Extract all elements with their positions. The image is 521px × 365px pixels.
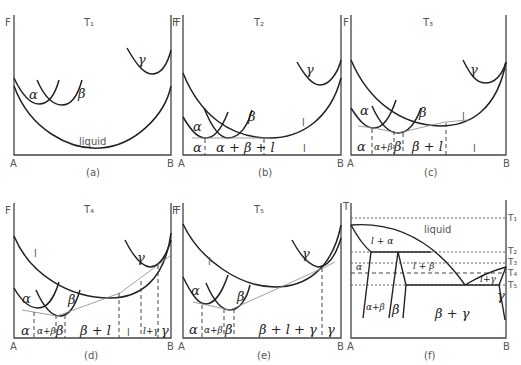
panel-caption: (a) (86, 167, 100, 178)
panel-caption: (d) (84, 350, 98, 361)
axis-label-a: A (347, 341, 354, 352)
axis-label-a: A (178, 158, 185, 169)
liquid-curve (14, 233, 171, 298)
region-label: β (394, 141, 402, 152)
beta-label: β (248, 111, 256, 122)
beta-label: β (237, 291, 245, 302)
region-beta-gamma: β + γ (435, 308, 469, 319)
liquid-label: l (34, 248, 37, 259)
region-liquid-gamma: l+γ (480, 274, 496, 285)
panel-caption: (c) (424, 167, 437, 178)
beta-label: β (419, 107, 427, 118)
axis-label-b: B (503, 158, 510, 169)
region-label: α (193, 142, 202, 153)
liquid-curve (183, 73, 341, 138)
temperature-level-t4: T₄ (508, 268, 517, 279)
panel-c-axes (351, 15, 506, 155)
gamma-solidus (499, 267, 506, 285)
alpha-label: α (193, 121, 202, 132)
region-label: β + l (80, 325, 111, 336)
panel-caption: (e) (257, 350, 271, 361)
region-label: β (56, 325, 64, 336)
region-label: α+β (204, 325, 223, 336)
region-label: γ (327, 324, 335, 335)
region-label: α (21, 325, 30, 336)
alpha-curve (183, 112, 228, 138)
gamma-label: γ (302, 248, 310, 259)
beta-right-upper (398, 252, 406, 285)
temperature-label: T₅ (254, 204, 264, 215)
gamma-label: γ (306, 64, 314, 75)
beta-label: β (78, 88, 86, 99)
temperature-level-t5: T₅ (508, 280, 517, 291)
axis-label-a: A (347, 158, 354, 169)
region-label: l (473, 143, 476, 154)
axis-label-b: B (167, 341, 174, 352)
temperature-level-t2: T₂ (508, 246, 517, 257)
temperature-level-t3: T₃ (508, 257, 517, 268)
region-alpha-beta: α+β (366, 302, 385, 313)
gamma-label: γ (137, 252, 145, 263)
axis-label-f: F (343, 17, 349, 28)
temperature-label: T₃ (423, 17, 433, 28)
liquid-label: l (462, 111, 465, 122)
temperature-label: T₂ (254, 17, 264, 28)
axis-label-b: B (167, 158, 174, 169)
region-beta: β (392, 304, 400, 315)
axis-label-f: F (5, 17, 11, 28)
panel-a (14, 15, 171, 155)
temperature-label: T₁ (84, 17, 94, 28)
gamma-curve (297, 60, 341, 85)
gamma-curve (125, 240, 171, 267)
beta-right-lower (403, 285, 406, 318)
liquid-label: liquid (79, 136, 106, 147)
alpha-label: α (191, 285, 200, 296)
temperature-level-t1: T₁ (508, 213, 517, 224)
region-label: β + l + γ (259, 324, 317, 335)
alpha-label: α (22, 293, 31, 304)
panel-a-axes (14, 15, 171, 155)
alpha-solidus (351, 225, 371, 252)
axis-label-a: A (10, 341, 17, 352)
liquid-label: l (302, 117, 305, 128)
gamma-label: γ (138, 54, 146, 65)
axis-label-a: A (178, 341, 185, 352)
region-label: β + l (412, 141, 443, 152)
panel-caption: (b) (258, 167, 272, 178)
alpha-label: α (360, 105, 369, 116)
region-label: β (225, 324, 233, 335)
axis-label-b: B (337, 158, 344, 169)
region-label: l (303, 143, 306, 154)
region-label: α (357, 141, 366, 152)
axis-label-t: T (343, 201, 349, 212)
panel-e (183, 203, 341, 338)
axis-label-f: F (5, 205, 11, 216)
region-label: α (189, 324, 198, 335)
axis-label-b: B (503, 341, 510, 352)
region-liquid-alpha: l + α (371, 236, 393, 247)
region-label: l+γ (143, 326, 159, 337)
gamma-label: γ (470, 64, 478, 75)
region-label: α + β + l (216, 142, 275, 153)
region-liquid: liquid (424, 224, 451, 235)
beta-curve (37, 80, 82, 105)
region-label: α+β (374, 142, 393, 153)
axis-label-a: A (10, 158, 17, 169)
alpha-label: α (29, 89, 38, 100)
gamma-curve (127, 48, 171, 74)
region-alpha: α (356, 262, 362, 273)
region-label: l (127, 327, 130, 338)
panel-b (183, 15, 341, 155)
alpha-curve (14, 282, 59, 308)
region-label: γ (161, 325, 169, 336)
region-gamma: γ (497, 290, 505, 301)
panel-caption: (f) (424, 350, 435, 361)
liquid-curve (183, 224, 341, 287)
axis-label-f: F (175, 17, 181, 28)
liquid-curve (351, 60, 506, 126)
beta-label: β (68, 294, 76, 305)
alpha-curve (183, 275, 228, 304)
axis-label-f: F (175, 205, 181, 216)
alpha-curve (351, 100, 396, 128)
panel-c (351, 15, 506, 155)
